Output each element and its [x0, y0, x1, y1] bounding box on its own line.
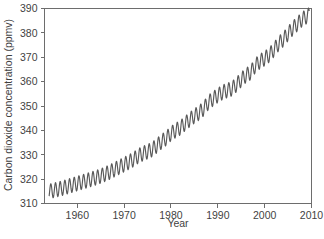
- y-tick-label: 320: [20, 173, 38, 185]
- x-tick-label: 1970: [112, 209, 136, 221]
- figure-caption-partial: [150, 229, 324, 239]
- y-tick-label: 360: [20, 75, 38, 87]
- co2-data-line: [49, 8, 309, 198]
- co2-figure: 310320330340350360370380390 196019701980…: [0, 0, 324, 239]
- axis-frame: [45, 9, 312, 204]
- x-tick-label: 2010: [300, 209, 324, 221]
- data-series-group: [49, 8, 309, 198]
- y-tick-label: 390: [20, 2, 38, 14]
- x-tick-label: 2000: [253, 209, 277, 221]
- y-tick-label: 340: [20, 124, 38, 136]
- y-tick-label: 380: [20, 27, 38, 39]
- y-tick-label: 310: [20, 197, 38, 209]
- x-axis-ticks: 196019701980199020002010: [66, 204, 324, 221]
- y-axis-title: Carbon dioxide concentration (ppmv): [2, 19, 14, 191]
- co2-line-chart: 310320330340350360370380390 196019701980…: [0, 0, 324, 239]
- x-tick-label: 1960: [66, 209, 90, 221]
- y-tick-label: 330: [20, 149, 38, 161]
- x-axis-title: Year: [167, 217, 189, 229]
- x-tick-label: 1990: [206, 209, 230, 221]
- y-tick-label: 350: [20, 100, 38, 112]
- y-axis-ticks: 310320330340350360370380390: [20, 2, 45, 209]
- y-tick-label: 370: [20, 51, 38, 63]
- plot-frame: [45, 9, 312, 204]
